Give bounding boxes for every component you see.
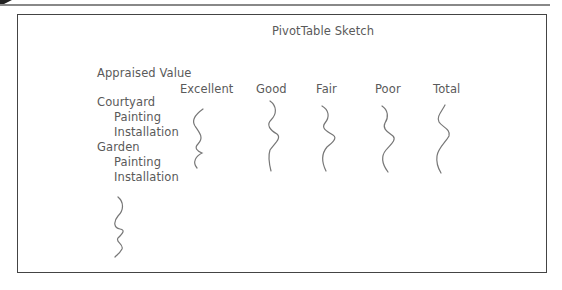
squiggle-total-icon [435, 104, 465, 174]
row-label-garden: Garden [97, 140, 140, 154]
column-header-total: Total [433, 82, 460, 96]
row-label-garden-installation: Installation [114, 170, 179, 184]
row-label-courtyard: Courtyard [97, 95, 155, 109]
row-field-label: Appraised Value [97, 66, 192, 80]
squiggle-excellent-icon [188, 108, 218, 170]
squiggle-fair-icon [318, 105, 348, 173]
column-header-good: Good [256, 82, 287, 96]
sketch-title: PivotTable Sketch [272, 24, 374, 38]
column-header-excellent: Excellent [180, 82, 233, 96]
column-header-poor: Poor [375, 82, 401, 96]
squiggle-good-icon [260, 100, 290, 172]
squiggle-rows-continued-icon [112, 196, 136, 258]
top-rule [0, 4, 550, 6]
squiggle-poor-icon [378, 105, 408, 173]
row-label-garden-painting: Painting [114, 155, 161, 169]
column-header-fair: Fair [316, 82, 337, 96]
row-label-courtyard-painting: Painting [114, 110, 161, 124]
row-label-courtyard-installation: Installation [114, 125, 179, 139]
